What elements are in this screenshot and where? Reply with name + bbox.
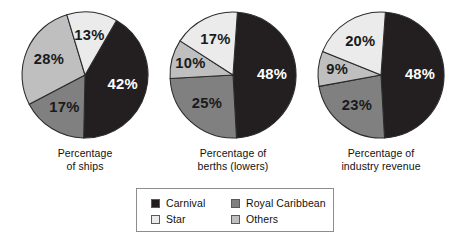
legend-swatch-star [151,215,160,224]
caption-line: Percentage of [341,147,420,160]
pie-slice-label: 17% [200,31,230,47]
pie-slice-label: 48% [257,66,287,82]
pie-caption-ships: Percentage of ships [58,147,113,172]
caption-line: Percentage [58,147,113,160]
pie-slice-label: 25% [192,95,222,111]
caption-line: Percentage of [198,147,269,160]
legend-item-royal-caribbean: Royal Caribbean [231,198,333,209]
pie-chart-ships: 42%17%28%13% Percentage of ships [14,0,156,172]
pie-slice-label: 23% [342,97,372,113]
legend-swatch-royal-caribbean [231,199,240,208]
pie-slice-label: 13% [74,27,104,43]
pie-slice-label: 10% [175,55,205,71]
pie-svg: 48%25%10%17% [166,8,300,142]
pie-caption-revenue: Percentage of industry revenue [341,147,420,172]
pie-chart-revenue: 48%23%9%20% Percentage of industry reven… [310,0,452,172]
pie-slice-label: 28% [34,51,64,67]
caption-line: industry revenue [341,160,420,173]
legend-item-star: Star [151,214,231,225]
legend-label-star: Star [166,214,186,225]
chart-legend: Carnival Royal Caribbean Star Others [136,188,334,232]
pie-slice-label: 9% [326,61,348,77]
legend-label-carnival: Carnival [166,198,205,209]
legend-label-royal-caribbean: Royal Caribbean [246,198,326,209]
pie-chart-berths: 48%25%10%17% Percentage of berths (lower… [162,0,304,172]
pie-chart-row: 42%17%28%13% Percentage of ships 48%25%1… [0,0,466,182]
pie-slice-label: 48% [405,66,435,82]
caption-line: of ships [58,160,113,173]
pie-svg: 48%23%9%20% [314,8,448,142]
legend-item-others: Others [231,214,333,225]
legend-item-carnival: Carnival [151,198,231,209]
pie-slice-label: 42% [107,76,137,92]
pie-graphic-revenue: 48%23%9%20% [314,8,448,142]
pie-svg: 42%17%28%13% [18,8,152,142]
pie-caption-berths: Percentage of berths (lowers) [198,147,269,172]
legend-grid: Carnival Royal Caribbean Star Others [151,195,333,227]
pie-slice-label: 20% [345,33,375,49]
legend-label-others: Others [246,214,278,225]
pie-graphic-berths: 48%25%10%17% [166,8,300,142]
legend-swatch-carnival [151,199,160,208]
legend-swatch-others [231,215,240,224]
pie-graphic-ships: 42%17%28%13% [18,8,152,142]
pie-slice-label: 17% [49,99,79,115]
caption-line: berths (lowers) [198,160,269,173]
